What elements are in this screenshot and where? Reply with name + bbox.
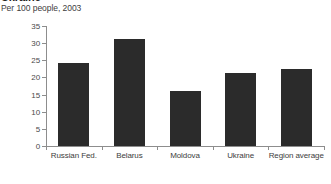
x-axis-category-label: Russian Fed.	[46, 151, 102, 161]
x-axis-tick	[324, 146, 325, 150]
x-axis-tick	[213, 146, 214, 150]
y-axis-label: 20	[31, 73, 40, 82]
y-axis-label: 30	[31, 39, 40, 48]
x-axis-tick	[157, 146, 158, 150]
x-axis-tick	[102, 146, 103, 150]
bar	[114, 39, 145, 146]
x-axis-tick	[268, 146, 269, 150]
y-axis-tick	[42, 26, 46, 27]
x-axis-category-label: Ukraine	[213, 151, 269, 161]
y-axis-tick	[42, 43, 46, 44]
x-axis-tick	[46, 146, 47, 150]
y-axis-label: 10	[31, 107, 40, 116]
x-axis-category-label: Belarus	[102, 151, 158, 161]
x-axis-category-label: Region average	[268, 151, 324, 161]
y-axis-label: 5	[36, 124, 40, 133]
y-axis-label: 15	[31, 90, 40, 99]
y-axis-tick	[42, 112, 46, 113]
y-axis-line	[46, 26, 47, 146]
y-axis-tick	[42, 77, 46, 78]
bar	[225, 73, 256, 146]
y-axis-label: 0	[36, 142, 40, 151]
bar	[281, 69, 312, 146]
x-axis-category-label: Moldova	[157, 151, 213, 161]
bar	[58, 63, 89, 146]
bar	[170, 91, 201, 146]
y-axis-label: 35	[31, 22, 40, 31]
plot-area: 05101520253035 Russian Fed.BelarusMoldov…	[46, 26, 324, 146]
chart-subtitle: Per 100 people, 2003	[1, 3, 81, 13]
y-axis-label: 25	[31, 56, 40, 65]
y-axis-tick	[42, 60, 46, 61]
x-axis-line	[46, 146, 324, 147]
y-axis-tick	[42, 129, 46, 130]
y-axis-tick	[42, 95, 46, 96]
